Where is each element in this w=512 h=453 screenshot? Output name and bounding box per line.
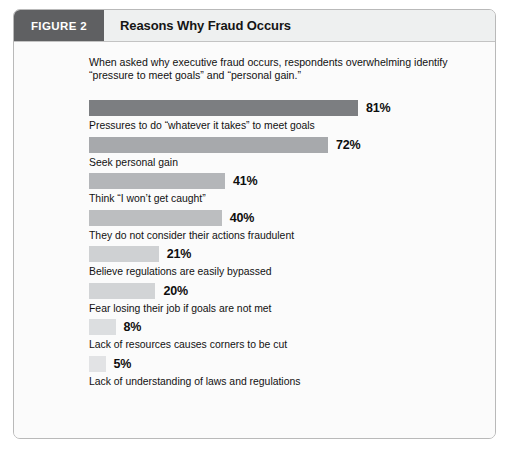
bar-value-label: 81% <box>366 101 390 115</box>
bar-value-label: 40% <box>230 211 254 225</box>
bar-category-label: Lack of resources causes corners to be c… <box>89 339 489 351</box>
figure-header: FIGURE 2 Reasons Why Fraud Occurs <box>14 10 495 42</box>
figure-number-badge: FIGURE 2 <box>14 10 104 41</box>
figure-intro-text: When asked why executive fraud occurs, r… <box>89 56 469 82</box>
bar-row: 72% <box>89 137 489 153</box>
bar <box>89 356 106 372</box>
bar-value-label: 5% <box>114 357 132 371</box>
figure-title: Reasons Why Fraud Occurs <box>104 10 495 41</box>
bar-value-label: 20% <box>163 284 187 298</box>
bar-group: 72%Seek personal gain <box>89 137 489 169</box>
bar-row: 5% <box>89 356 489 372</box>
bar <box>89 137 328 153</box>
bar-category-label: They do not consider their actions fraud… <box>89 230 489 242</box>
bar-group: 8%Lack of resources causes corners to be… <box>89 319 489 351</box>
bar-category-label: Seek personal gain <box>89 157 489 169</box>
bar-row: 41% <box>89 173 489 189</box>
bar-row: 20% <box>89 283 489 299</box>
figure-panel: FIGURE 2 Reasons Why Fraud Occurs When a… <box>13 9 496 439</box>
bar-value-label: 8% <box>124 320 142 334</box>
bar <box>89 100 358 116</box>
bar-group: 21%Believe regulations are easily bypass… <box>89 246 489 278</box>
bar-value-label: 41% <box>233 174 257 188</box>
bar <box>89 319 116 335</box>
bar-group: 81%Pressures to do “whatever it takes” t… <box>89 100 489 132</box>
bar <box>89 173 225 189</box>
bar-group: 41%Think “I won’t get caught” <box>89 173 489 205</box>
bar-group: 40%They do not consider their actions fr… <box>89 210 489 242</box>
bar-category-label: Pressures to do “whatever it takes” to m… <box>89 120 489 132</box>
bar-row: 81% <box>89 100 489 116</box>
bar <box>89 210 222 226</box>
bar-category-label: Fear losing their job if goals are not m… <box>89 303 489 315</box>
bar-category-label: Think “I won’t get caught” <box>89 193 489 205</box>
bar-value-label: 21% <box>167 247 191 261</box>
bar-row: 21% <box>89 246 489 262</box>
bar-row: 40% <box>89 210 489 226</box>
bar <box>89 283 155 299</box>
bar-value-label: 72% <box>336 138 360 152</box>
bar <box>89 246 159 262</box>
bar-group: 20%Fear losing their job if goals are no… <box>89 283 489 315</box>
figure-body: When asked why executive fraud occurs, r… <box>14 42 495 439</box>
horizontal-bar-chart: 81%Pressures to do “whatever it takes” t… <box>89 100 489 392</box>
bar-category-label: Believe regulations are easily bypassed <box>89 266 489 278</box>
bar-group: 5%Lack of understanding of laws and regu… <box>89 356 489 388</box>
bar-category-label: Lack of understanding of laws and regula… <box>89 376 489 388</box>
bar-row: 8% <box>89 319 489 335</box>
